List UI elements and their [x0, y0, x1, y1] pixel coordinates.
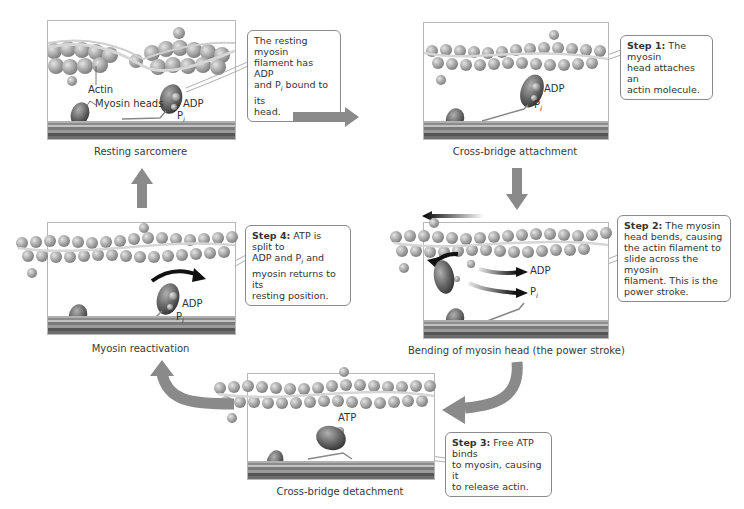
caption-resting-sarcomere: Resting sarcomere: [47, 146, 234, 157]
caption-power-stroke: Bending of myosin head (the power stroke…: [408, 345, 622, 356]
adp-label: ADP: [530, 265, 551, 276]
callout-step-3: Step 3: Free ATP binds to myosin, causin…: [445, 432, 552, 497]
panel-power-stroke: ADP Pi: [423, 222, 609, 339]
flow-arrow-up: [131, 168, 153, 208]
atp-label: ATP: [338, 412, 356, 423]
myosin-thick-filament: [48, 121, 235, 139]
callout-step-4: Step 4: ATP is split to ADP and Pi and m…: [245, 225, 351, 306]
panel-cross-bridge-detachment: ATP: [247, 373, 435, 480]
actin-label: Actin: [88, 84, 113, 95]
flow-arrow-down: [506, 168, 528, 210]
pi-label: Pi: [530, 286, 538, 300]
panel-cross-bridge-attachment: ADP Pi: [423, 22, 609, 140]
myosin-thick-filament: [248, 461, 434, 479]
pi-label: Pi: [176, 311, 184, 325]
callout-step-2: Step 2: The myosin head bends, causing t…: [617, 215, 731, 302]
pi-label: Pi: [177, 110, 185, 124]
flow-arrow-right: [293, 107, 363, 127]
caption-cross-bridge-attachment: Cross-bridge attachment: [423, 146, 607, 157]
adp-label: ADP: [544, 83, 565, 94]
callout-step-1: Step 1: The myosin head attaches an acti…: [620, 35, 713, 100]
caption-cross-bridge-detachment: Cross-bridge detachment: [247, 486, 433, 497]
adp-label: ADP: [183, 98, 204, 109]
caption-myosin-reactivation: Myosin reactivation: [47, 343, 234, 354]
myosin-thick-filament: [424, 121, 608, 139]
pi-label: Pi: [534, 99, 542, 113]
panel-resting-sarcomere: Actin Myosin heads ADP Pi: [47, 20, 236, 140]
flow-arrow-curved-left-up: [128, 360, 238, 420]
flow-arrow-curved-down-left: [440, 360, 530, 440]
myosin-thick-filament: [424, 320, 608, 338]
myosin-thick-filament: [48, 316, 235, 334]
adp-label: ADP: [182, 298, 203, 309]
panel-myosin-reactivation: ADP Pi: [47, 222, 236, 335]
myosin-heads-label: Myosin heads: [95, 98, 163, 109]
